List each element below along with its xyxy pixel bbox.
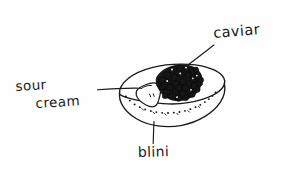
leader-line-blini: [153, 122, 154, 144]
label-sour-cream-line1: sour: [15, 77, 47, 93]
caviar-mound: [156, 65, 204, 102]
leader-line-caviar: [186, 45, 214, 67]
label-blini: blini: [138, 144, 170, 160]
label-sour-cream-line2: cream: [35, 93, 80, 110]
sketch-canvas: caviar sour cream blini: [0, 0, 295, 178]
